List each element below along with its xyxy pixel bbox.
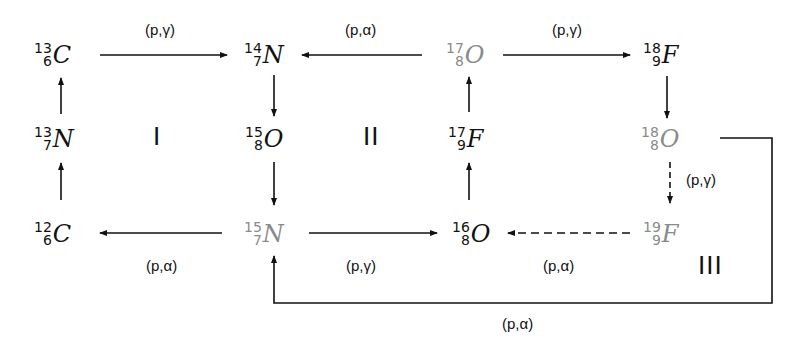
reaction-label-o18-f19: (p,γ)	[686, 171, 716, 188]
reaction-label-n15-c12: (p,α)	[146, 257, 177, 274]
atomic-number: 8	[461, 234, 470, 247]
atomic-number: 9	[652, 55, 661, 68]
cycle-label-3: III	[698, 250, 723, 281]
element-symbol: O	[465, 41, 485, 69]
atomic-number: 9	[652, 234, 661, 247]
atomic-number: 7	[43, 139, 52, 152]
reaction-label-o17-n14: (p,α)	[345, 21, 376, 38]
nuclide-n13: 137N	[34, 119, 74, 159]
atomic-number: 6	[43, 55, 52, 68]
element-symbol: N	[263, 220, 284, 248]
nuclide-c12: 126C	[34, 214, 71, 254]
nuclide-c13: 136C	[34, 35, 71, 75]
element-symbol: O	[264, 125, 284, 153]
nuclide-f18: 189F	[643, 35, 678, 75]
atomic-number: 8	[455, 55, 464, 68]
element-symbol: N	[53, 125, 74, 153]
nuclide-n15: 157N	[244, 214, 284, 254]
reaction-label-c13-n14: (p,γ)	[145, 21, 175, 38]
atomic-number: 6	[43, 234, 52, 247]
element-symbol: N	[263, 41, 284, 69]
element-symbol: F	[662, 220, 679, 248]
atomic-number: 8	[254, 139, 263, 152]
atomic-number: 7	[253, 55, 262, 68]
atomic-number: 9	[457, 139, 466, 152]
reaction-label-o18-n15: (p,α)	[502, 315, 533, 332]
nuclide-f19: 199F	[643, 214, 678, 254]
nuclide-o15: 158O	[245, 119, 284, 159]
element-symbol: F	[662, 41, 679, 69]
reaction-label-o17-f18: (p,γ)	[552, 21, 582, 38]
reaction-label-n15-o16: (p,γ)	[346, 257, 376, 274]
element-symbol: F	[467, 125, 484, 153]
element-symbol: C	[53, 41, 71, 69]
nuclide-f17: 179F	[448, 119, 483, 159]
atomic-number: 8	[650, 139, 659, 152]
reaction-arrows	[0, 0, 805, 346]
nuclide-o18: 188O	[641, 119, 680, 159]
element-symbol: O	[660, 125, 680, 153]
nuclide-o17: 178O	[446, 35, 485, 75]
cycle-label-2: II	[363, 121, 379, 152]
nuclide-o16: 168O	[452, 214, 491, 254]
reaction-label-f19-o16: (p,α)	[543, 257, 574, 274]
element-symbol: O	[471, 220, 491, 248]
atomic-number: 7	[253, 234, 262, 247]
nuclide-n14: 147N	[244, 35, 284, 75]
cycle-label-1: I	[153, 121, 161, 152]
element-symbol: C	[53, 220, 71, 248]
